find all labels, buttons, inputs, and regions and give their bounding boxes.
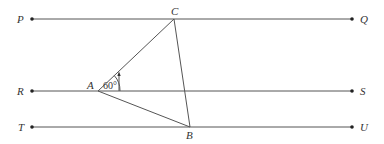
label-s: S: [360, 85, 366, 97]
label-b: B: [186, 129, 193, 141]
angle-label: 60°: [103, 80, 117, 91]
triangle-abc: C A B: [86, 5, 193, 141]
point-u-dot: [350, 125, 354, 129]
segment-cb: [174, 19, 190, 127]
point-t-dot: [30, 125, 34, 129]
label-q: Q: [360, 13, 368, 25]
point-p-dot: [30, 17, 34, 21]
point-r-dot: [30, 89, 34, 93]
line-tu: T U: [18, 121, 369, 133]
angle-marker: 60°: [103, 72, 121, 92]
label-r: R: [16, 85, 24, 97]
segment-ab: [98, 91, 190, 127]
label-c: C: [171, 5, 179, 17]
geometry-diagram: P Q R S T U C A B 60°: [0, 0, 384, 144]
label-a: A: [86, 79, 94, 91]
label-p: P: [16, 13, 24, 25]
line-rs: R S: [16, 85, 366, 97]
point-q-dot: [350, 17, 354, 21]
point-s-dot: [350, 89, 354, 93]
line-pq: P Q: [16, 13, 368, 25]
label-u: U: [360, 121, 369, 133]
label-t: T: [18, 121, 25, 133]
